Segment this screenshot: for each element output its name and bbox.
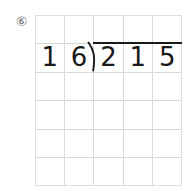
grid-line-horizontal-0 <box>35 15 182 16</box>
worksheet-canvas: ⑥ 1 6 2 1 5 <box>0 0 192 191</box>
digit-cell-divisor-tens[interactable]: 1 <box>35 43 64 72</box>
division-vinculum <box>93 42 182 44</box>
grid-line-horizontal-2 <box>35 72 182 73</box>
grid-line-horizontal-5 <box>35 157 182 158</box>
problem-number-label: ⑥ <box>13 13 30 30</box>
grid-line-horizontal-3 <box>35 100 182 101</box>
grid-line-horizontal-6 <box>35 185 182 186</box>
digit-cell-dividend-hundreds[interactable]: 2 <box>94 43 123 72</box>
answer-grid[interactable] <box>35 15 182 186</box>
grid-line-horizontal-4 <box>35 129 182 130</box>
digit-cell-dividend-ones[interactable]: 5 <box>153 43 182 72</box>
digit-cell-dividend-tens[interactable]: 1 <box>123 43 152 72</box>
digit-cell-divisor-ones[interactable]: 6 <box>64 43 93 72</box>
